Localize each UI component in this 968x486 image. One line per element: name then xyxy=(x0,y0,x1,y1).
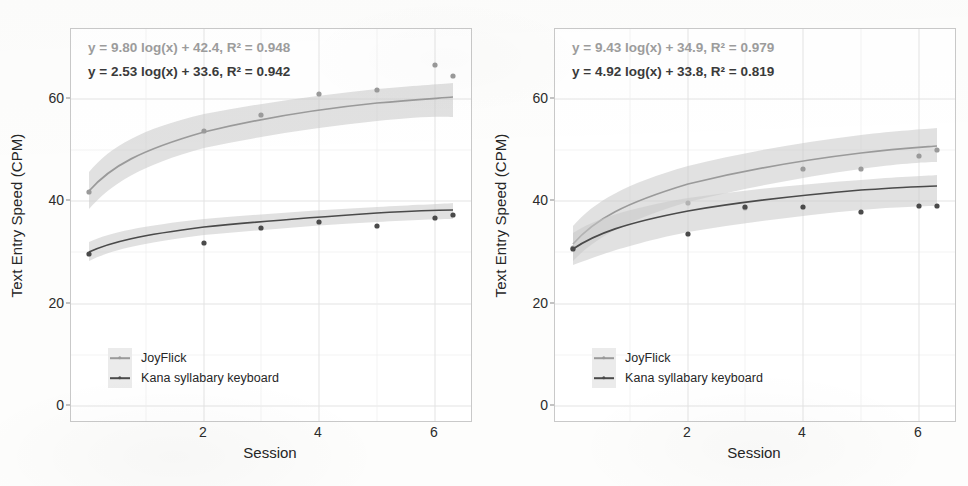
x-tick-label-4: 4 xyxy=(798,424,806,440)
legend-item-kana[interactable]: Kana syllabary keyboard xyxy=(108,368,279,388)
legend-item-joyflick[interactable]: JoyFlick xyxy=(592,348,763,368)
equation-annotations-left: y = 9.80 log(x) + 42.4, R² = 0.948 y = 2… xyxy=(88,36,290,84)
y-tick-label-20: 20 xyxy=(514,295,548,311)
x-axis-title: Session xyxy=(554,444,954,461)
y-tick-label-40: 40 xyxy=(514,192,548,208)
equation-kana: y = 4.92 log(x) + 33.8, R² = 0.819 xyxy=(572,60,774,84)
x-tick-label-4: 4 xyxy=(314,424,322,440)
y-tick-label-60: 60 xyxy=(514,90,548,106)
y-axis-title: Text Entry Speed (CPM) xyxy=(490,0,512,430)
series-joyflick-left xyxy=(86,62,455,209)
legend-item-joyflick[interactable]: JoyFlick xyxy=(108,348,279,368)
y-tick-label-40: 40 xyxy=(30,192,64,208)
y-tick-label-0: 0 xyxy=(514,397,548,413)
chart-panel-right: Text Entry Speed (CPM) Session 60 40 20 … xyxy=(484,0,968,486)
legend-label: Kana syllabary keyboard xyxy=(141,371,279,385)
legend-key-line-icon xyxy=(108,348,132,368)
figure-two-panel-chart: Text Entry Speed (CPM) Session 60 40 20 … xyxy=(0,0,968,486)
legend-key-line-icon xyxy=(108,368,132,388)
legend-right: JoyFlick Kana syllabary keyboard xyxy=(592,348,763,388)
x-tick-label-2: 2 xyxy=(199,424,207,440)
x-tick-label-2: 2 xyxy=(683,424,691,440)
x-tick-label-6: 6 xyxy=(430,424,438,440)
chart-panel-left: Text Entry Speed (CPM) Session 60 40 20 … xyxy=(0,0,484,486)
legend-label: JoyFlick xyxy=(141,351,187,365)
legend-key-line-icon xyxy=(592,348,616,368)
y-tick-label-60: 60 xyxy=(30,90,64,106)
legend-item-kana[interactable]: Kana syllabary keyboard xyxy=(592,368,763,388)
legend-key-line-icon xyxy=(592,368,616,388)
legend-label: JoyFlick xyxy=(625,351,671,365)
equation-joyflick: y = 9.80 log(x) + 42.4, R² = 0.948 xyxy=(88,36,290,60)
y-tick-label-20: 20 xyxy=(30,295,64,311)
equation-annotations-right: y = 9.43 log(x) + 34.9, R² = 0.979 y = 4… xyxy=(572,36,774,84)
x-tick-label-6: 6 xyxy=(914,424,922,440)
legend-left: JoyFlick Kana syllabary keyboard xyxy=(108,348,279,388)
y-tick-label-0: 0 xyxy=(30,397,64,413)
equation-joyflick: y = 9.43 log(x) + 34.9, R² = 0.979 xyxy=(572,36,774,60)
y-axis-title: Text Entry Speed (CPM) xyxy=(6,0,28,430)
legend-label: Kana syllabary keyboard xyxy=(625,371,763,385)
x-axis-title: Session xyxy=(70,444,470,461)
equation-kana: y = 2.53 log(x) + 33.6, R² = 0.942 xyxy=(88,60,290,84)
